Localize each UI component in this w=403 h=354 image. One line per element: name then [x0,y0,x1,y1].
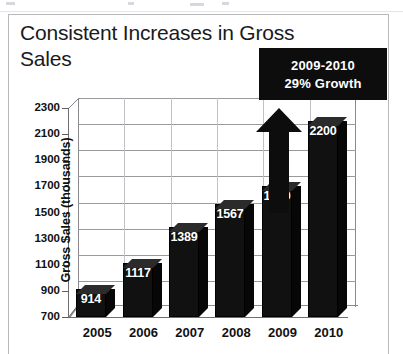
y-tick-label: 900 [18,284,60,296]
y-tick-label: 1900 [18,153,60,165]
bar-top-face [169,218,208,227]
y-tick-label: 700 [18,310,60,322]
bar-top-face [76,280,115,289]
growth-callout: 2009-2010 29% Growth [259,48,387,100]
bar-value-label: 1117 [123,266,153,280]
x-label-2006: 2006 [121,325,167,340]
bar-front-face [308,121,338,317]
bar-top-face [215,195,254,204]
callout-line-1: 2009-2010 [291,58,355,73]
bar-2007: 1389 [169,227,199,317]
y-tick-label: 1500 [18,206,60,218]
bar-side-face [153,263,162,317]
bar-side-face [199,227,208,317]
bar-top-face [123,254,162,263]
y-tick-label: 1100 [18,258,60,270]
bar-2010: 2200 [308,121,338,317]
y-tick-label: 1700 [18,179,60,191]
callout-line-2: 29% Growth [284,76,361,91]
bar-value-label: 1389 [169,230,199,244]
x-label-2005: 2005 [74,325,120,340]
y-axis-title: Gross Sales (thousands) [59,95,73,325]
y-tick-label: 2300 [18,101,60,113]
y-tick-label: 1300 [18,232,60,244]
growth-arrow-icon [256,108,302,213]
bar-value-label: 2200 [308,124,338,138]
bar-value-label: 914 [76,292,106,306]
bar-value-label: 1567 [215,207,245,221]
bar-top-face [308,112,347,121]
x-label-2008: 2008 [213,325,259,340]
bar-2006: 1117 [123,263,153,317]
x-label-2007: 2007 [167,325,213,340]
bar-2005: 914 [76,289,106,317]
x-label-2010: 2010 [306,325,352,340]
bar-side-face [338,121,347,317]
bar-side-face [245,204,254,317]
x-label-2009: 2009 [260,325,306,340]
bar-2008: 1567 [215,204,245,317]
y-tick-label: 2100 [18,127,60,139]
